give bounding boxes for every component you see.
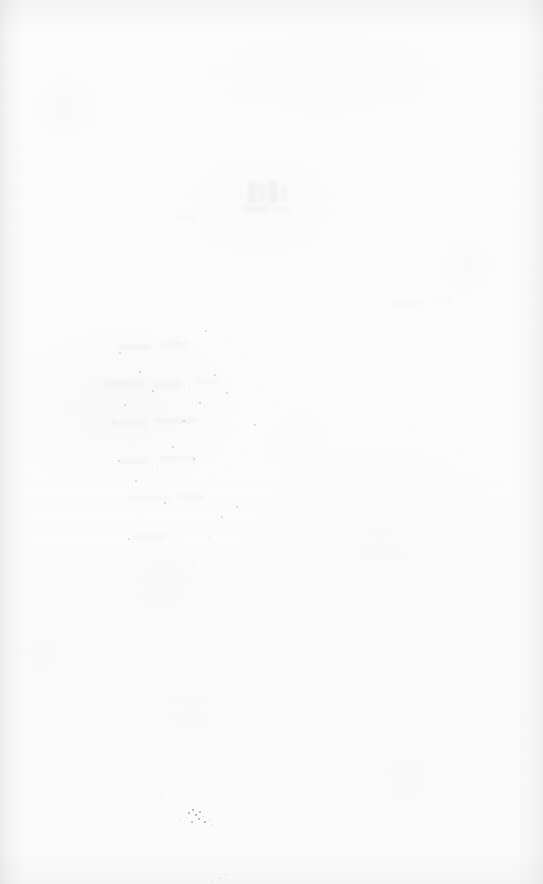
speck	[185, 522, 186, 523]
speck	[346, 520, 347, 521]
speck	[420, 278, 421, 279]
speck	[122, 498, 123, 499]
speck	[226, 392, 228, 394]
ghost-mark	[110, 420, 146, 426]
speck	[189, 384, 190, 385]
speck	[192, 562, 193, 563]
speck	[146, 812, 147, 813]
speck	[466, 714, 467, 715]
speck	[152, 640, 153, 641]
dark-speck	[209, 819, 210, 820]
speck	[228, 556, 229, 557]
speck	[272, 405, 273, 406]
dark-speck	[192, 809, 194, 811]
speck	[172, 446, 174, 448]
ghost-mark	[118, 344, 152, 350]
speck	[219, 430, 220, 431]
speck	[458, 448, 459, 449]
ghost-mark	[268, 180, 278, 203]
speck	[277, 443, 278, 444]
speck	[434, 516, 435, 517]
speck	[254, 424, 256, 426]
dark-speck	[203, 816, 204, 817]
speck	[221, 516, 223, 518]
speck	[256, 806, 257, 807]
paper-mottle-texture	[0, 0, 543, 884]
speck	[196, 726, 197, 727]
ghost-mark	[120, 458, 150, 464]
ghost-mark	[259, 184, 266, 203]
speck	[124, 800, 125, 801]
speck	[148, 332, 149, 333]
speck	[356, 252, 357, 253]
speck	[205, 330, 207, 332]
speck	[118, 460, 120, 462]
dark-speck	[211, 881, 212, 882]
ghost-mark	[430, 296, 454, 302]
ghost-mark	[178, 494, 202, 500]
speck	[96, 202, 97, 203]
dark-speck	[198, 818, 200, 820]
speck	[340, 664, 341, 665]
speck	[201, 496, 202, 497]
speck	[432, 636, 433, 637]
speck	[139, 371, 141, 373]
dark-speck	[219, 878, 220, 879]
speck	[160, 794, 161, 795]
speck	[271, 500, 272, 501]
ghost-mark	[154, 418, 198, 424]
speck	[448, 196, 449, 197]
speck	[166, 408, 167, 409]
speck	[352, 858, 353, 859]
speck	[386, 742, 387, 743]
speck	[438, 372, 439, 373]
scanned-page	[0, 0, 543, 884]
speck	[246, 356, 247, 357]
speck	[249, 486, 250, 487]
speck	[163, 358, 164, 359]
speck	[384, 128, 385, 129]
speck	[476, 356, 477, 357]
speck	[390, 492, 391, 493]
speck	[124, 404, 126, 406]
speck	[88, 856, 89, 857]
ghost-mark	[196, 378, 218, 384]
speck	[112, 422, 113, 423]
speck	[224, 286, 225, 287]
speck	[292, 708, 293, 709]
speck	[404, 844, 405, 845]
dark-speck	[212, 824, 213, 825]
dark-speck	[180, 820, 181, 821]
speck	[255, 370, 256, 371]
speck	[138, 578, 139, 579]
speck	[248, 852, 249, 853]
ghost-mark	[128, 496, 170, 502]
speck	[119, 352, 121, 354]
scan-edge-shadow-right	[513, 0, 543, 884]
speck	[243, 448, 244, 449]
speck	[257, 524, 258, 525]
speck	[193, 458, 195, 460]
speck	[264, 566, 265, 567]
speck	[118, 836, 119, 837]
speck	[199, 402, 201, 404]
speck	[182, 846, 183, 847]
scan-edge-shadow-left	[0, 0, 26, 884]
speck	[170, 542, 171, 543]
speck	[92, 700, 93, 701]
ghost-mark	[158, 456, 196, 462]
speck	[230, 468, 231, 469]
dark-speck	[188, 812, 190, 814]
speck	[145, 427, 146, 428]
ghost-mark	[248, 181, 257, 203]
speck	[196, 351, 197, 352]
speck	[263, 388, 264, 389]
dark-speck	[199, 811, 201, 813]
speck	[72, 262, 73, 263]
speck	[196, 866, 197, 867]
ghost-mark	[132, 534, 166, 540]
ghost-mark	[160, 341, 188, 347]
speck	[176, 336, 177, 337]
dark-speck	[186, 817, 187, 818]
speck	[100, 366, 101, 367]
